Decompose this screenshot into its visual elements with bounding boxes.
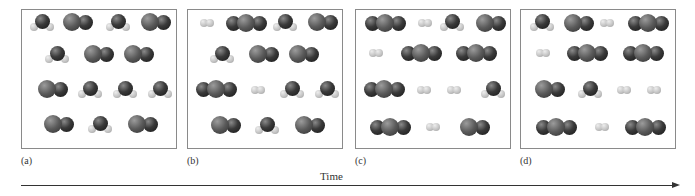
oxygen-atom-icon [111,14,126,29]
hydrogen-atom-icon [423,86,431,94]
carbon-atom-icon [141,13,159,31]
carbon-atom-icon [376,14,394,32]
carbon-atom-icon [375,80,393,98]
carbon-atom-icon [295,116,313,134]
hydrogen-atom-icon [653,86,661,94]
oxygen-atom-icon [445,14,460,29]
hydrogen-atom-icon [257,86,265,94]
oxygen-atom-icon [260,117,275,132]
carbon-atom-icon [535,80,553,98]
hydrogen-atom-icon [623,86,631,94]
carbon-atom-icon [467,44,485,62]
oxygen-atom-icon [320,81,335,96]
carbon-atom-icon [636,118,654,136]
carbon-atom-icon [128,115,146,133]
panel-b-label: (b) [187,155,199,166]
carbon-atom-icon [639,14,657,32]
hydrogen-atom-icon [424,19,432,27]
carbon-atom-icon [381,118,399,136]
carbon-atom-icon [249,45,267,63]
panel-a-label: (a) [21,155,32,166]
oxygen-atom-icon [215,46,230,61]
oxygen-atom-icon [83,81,98,96]
oxygen-atom-icon [153,81,168,96]
arrow-head-icon [672,182,680,188]
carbon-atom-icon [412,44,430,62]
carbon-atom-icon [634,44,652,62]
carbon-atom-icon [289,45,307,63]
carbon-atom-icon [124,45,142,63]
oxygen-atom-icon [285,81,300,96]
oxygen-atom-icon [486,81,501,96]
carbon-atom-icon [211,116,229,134]
panel-c-label: (c) [355,155,366,166]
hydrogen-atom-icon [453,86,461,94]
hydrogen-atom-icon [432,123,440,131]
hydrogen-atom-icon [375,49,383,57]
carbon-atom-icon [308,13,326,31]
panel-d-label: (d) [520,155,532,166]
carbon-atom-icon [237,14,255,32]
carbon-atom-icon [578,44,596,62]
oxygen-atom-icon [278,14,293,29]
time-arrow-line [21,185,673,186]
carbon-atom-icon [476,14,494,32]
oxygen-atom-icon [35,14,50,29]
oxygen-atom-icon [583,81,598,96]
oxygen-atom-icon [93,116,108,131]
oxygen-atom-icon [50,46,65,61]
carbon-atom-icon [564,14,582,32]
carbon-atom-icon [207,80,225,98]
carbon-atom-icon [84,45,102,63]
carbon-atom-icon [38,80,56,98]
carbon-atom-icon [460,118,478,136]
time-axis-label: Time [320,170,343,182]
hydrogen-atom-icon [601,123,609,131]
carbon-atom-icon [547,118,565,136]
carbon-atom-icon [44,115,62,133]
hydrogen-atom-icon [206,19,214,27]
oxygen-atom-icon [535,14,550,29]
oxygen-atom-icon [118,81,133,96]
carbon-atom-icon [63,13,81,31]
hydrogen-atom-icon [542,49,550,57]
hydrogen-atom-icon [606,19,614,27]
